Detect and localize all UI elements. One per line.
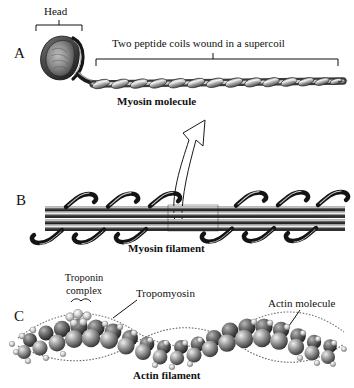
figure-artwork [0, 0, 354, 388]
troponin-complex-label-line1: Troponin [56, 272, 112, 283]
panel-b-artwork [32, 191, 348, 244]
panel-a-artwork [36, 20, 349, 91]
muscle-protein-figure: A B C Head Two peptide coils wound in a … [0, 0, 354, 388]
head-label: Head [44, 6, 67, 18]
actin-filament-caption: Actin filament [133, 370, 201, 382]
panel-letter-c: C [14, 308, 24, 324]
myosin-head [41, 36, 95, 83]
head-bracket [36, 20, 82, 31]
supercoil-tail [91, 76, 349, 91]
panel-letter-b: B [16, 192, 26, 208]
supercoil-label: Two peptide coils wound in a supercoil [112, 38, 285, 50]
actin-molecule-label: Actin molecule [268, 298, 336, 310]
troponin-bracket [71, 299, 91, 302]
panel-letter-a: A [14, 45, 25, 61]
filament-core-rods [45, 206, 345, 231]
tropomyosin-label: Tropomyosin [136, 288, 195, 300]
tropomyosin-leader [113, 300, 137, 318]
troponin-complex-label-line2: complex [56, 285, 112, 296]
myosin-molecule-caption: Myosin molecule [117, 96, 196, 108]
myosin-filament-caption: Myosin filament [128, 243, 205, 255]
supercoil-bracket [96, 53, 338, 66]
